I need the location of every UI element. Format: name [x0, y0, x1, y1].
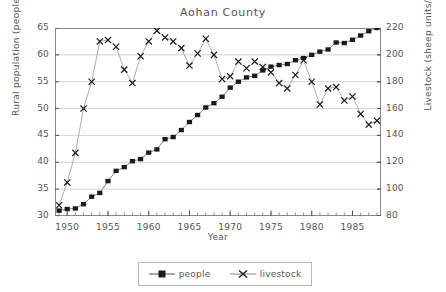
data-point — [276, 80, 282, 86]
data-point — [162, 137, 167, 141]
data-point — [138, 157, 143, 161]
data-point — [366, 29, 371, 33]
data-point — [187, 120, 192, 124]
data-point — [203, 36, 209, 42]
data-point — [252, 58, 258, 64]
data-point — [350, 38, 355, 42]
data-point — [227, 73, 233, 79]
data-point — [146, 150, 151, 154]
data-point — [171, 135, 176, 139]
x-axis-tick-label: 1985 — [332, 222, 372, 232]
legend-label-livestock: livestock — [260, 269, 302, 279]
y-axis-tick-label-right: 180 — [386, 76, 416, 86]
y-axis-label-left: Rural population (people/sq km) — [11, 0, 21, 129]
data-point — [228, 85, 233, 89]
data-point — [137, 53, 143, 59]
data-point — [349, 93, 355, 99]
data-point — [235, 58, 241, 64]
data-point — [170, 38, 176, 44]
data-point — [186, 63, 192, 69]
data-point — [219, 76, 225, 82]
data-point — [284, 85, 290, 91]
data-point — [268, 64, 273, 68]
x-axis-tick-label: 1965 — [169, 222, 209, 232]
data-point — [219, 95, 224, 99]
data-point — [56, 202, 62, 208]
data-point — [64, 179, 70, 185]
data-point — [89, 194, 94, 198]
data-point — [154, 147, 159, 151]
data-point — [81, 202, 86, 206]
data-point — [317, 101, 323, 107]
data-point — [97, 191, 102, 195]
data-point — [73, 206, 78, 210]
plot-svg — [55, 28, 381, 216]
plot-area — [55, 28, 381, 216]
x-axis-label: Year — [55, 232, 381, 242]
x-axis-tick-label: 1960 — [129, 222, 169, 232]
legend-item-people[interactable]: people — [149, 269, 211, 279]
series-people — [56, 28, 379, 213]
data-point — [374, 28, 379, 30]
y-axis-tick-label-right: 120 — [386, 156, 416, 166]
data-point — [334, 40, 339, 44]
y-axis-tick-label-right: 80 — [386, 210, 416, 220]
legend-item-livestock[interactable]: livestock — [230, 269, 302, 279]
data-point — [366, 122, 372, 128]
y-axis-tick-label-left: 60 — [23, 49, 49, 59]
y-axis-tick-label-right: 160 — [386, 103, 416, 113]
y-axis-tick-label-left: 65 — [23, 22, 49, 32]
data-point — [179, 128, 184, 132]
data-point — [129, 80, 135, 86]
y-axis-tick-label-right: 140 — [386, 129, 416, 139]
data-point — [268, 69, 274, 75]
y-axis-tick-label-right: 220 — [386, 22, 416, 32]
data-point — [211, 101, 216, 105]
x-axis-tick-label: 1950 — [47, 222, 87, 232]
data-point — [146, 38, 152, 44]
data-point — [293, 58, 298, 62]
data-point — [162, 34, 168, 40]
data-point — [252, 74, 257, 78]
data-point — [374, 118, 380, 124]
data-point — [178, 45, 184, 51]
plot-frame — [56, 29, 381, 216]
x-axis-tick-label: 1975 — [251, 222, 291, 232]
legend-marker-filled-square — [149, 269, 175, 279]
data-point — [358, 111, 364, 117]
x-axis-tick-label: 1970 — [210, 222, 250, 232]
data-point — [56, 208, 61, 212]
data-point — [236, 80, 241, 84]
y-axis-tick-label-left: 30 — [23, 210, 49, 220]
chart-title: Aohan County — [0, 6, 446, 19]
data-point — [342, 41, 347, 45]
data-point — [121, 67, 127, 73]
data-point — [292, 72, 298, 78]
data-point — [130, 159, 135, 163]
data-point — [285, 62, 290, 66]
x-axis-tick-label: 1955 — [88, 222, 128, 232]
data-point — [309, 53, 314, 57]
data-point — [114, 169, 119, 173]
y-axis-tick-label-right: 200 — [386, 49, 416, 59]
data-point — [113, 44, 119, 50]
data-point — [105, 179, 110, 183]
data-point — [277, 63, 282, 67]
data-point — [341, 97, 347, 103]
legend-label-people: people — [179, 269, 211, 279]
y-axis-tick-label-left: 55 — [23, 76, 49, 86]
y-axis-tick-label-right: 100 — [386, 183, 416, 193]
data-point — [244, 75, 249, 79]
data-point — [195, 50, 201, 56]
data-point — [203, 105, 208, 109]
data-point — [65, 207, 70, 211]
data-point — [325, 47, 330, 51]
legend-marker-x — [230, 269, 256, 279]
y-axis-tick-label-left: 40 — [23, 156, 49, 166]
data-point — [195, 113, 200, 117]
data-point — [243, 65, 249, 71]
data-point — [122, 165, 127, 169]
y-axis-label-right: Livestock (sheep units/sq km) — [423, 0, 433, 129]
chart-figure: Aohan County Rural population (people/sq… — [0, 0, 446, 292]
y-axis-tick-label-left: 45 — [23, 129, 49, 139]
